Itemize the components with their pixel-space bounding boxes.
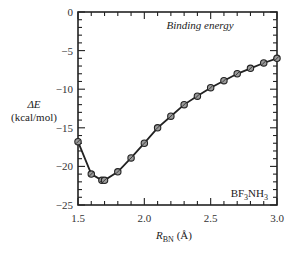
data-point-marker bbox=[154, 125, 160, 131]
data-point-marker bbox=[141, 140, 147, 146]
annot-nh: NH bbox=[248, 187, 264, 199]
data-point-marker bbox=[75, 138, 81, 144]
data-point-marker bbox=[115, 169, 121, 175]
data-point-marker bbox=[234, 71, 240, 77]
y-tick-label: −10 bbox=[56, 83, 74, 95]
x-axis-title-unit: (Å) bbox=[174, 229, 192, 242]
data-series bbox=[75, 55, 280, 183]
y-tick-label: −25 bbox=[56, 199, 74, 211]
annot-bf: BF bbox=[231, 187, 244, 199]
y-tick-label: −5 bbox=[61, 45, 73, 57]
y-axis-title: ΔE bbox=[26, 98, 40, 110]
y-axis-title-symbol: ΔE bbox=[26, 98, 40, 110]
data-point-marker bbox=[194, 93, 200, 99]
axis-ticks bbox=[78, 12, 277, 205]
x-tick-label: 3.0 bbox=[270, 212, 284, 224]
series-line bbox=[78, 58, 277, 180]
data-point-marker bbox=[168, 113, 174, 119]
data-point-marker bbox=[128, 155, 134, 161]
data-point-marker bbox=[181, 101, 187, 107]
chart-title: Binding energy bbox=[166, 19, 233, 31]
x-tick-label: 2.0 bbox=[137, 212, 151, 224]
data-point-marker bbox=[221, 78, 227, 84]
y-tick-label: −15 bbox=[56, 122, 74, 134]
y-tick-label: 0 bbox=[68, 6, 74, 18]
annot-sub-3b: 3 bbox=[264, 193, 268, 202]
data-point-marker bbox=[88, 171, 94, 177]
data-point-marker bbox=[101, 177, 107, 183]
data-point-marker bbox=[261, 60, 267, 66]
data-point-marker bbox=[274, 55, 280, 61]
plot-frame bbox=[78, 12, 277, 205]
x-axis-title-subscript: BN bbox=[163, 235, 174, 244]
x-axis-title: RBN (Å) bbox=[155, 229, 192, 244]
plot-border bbox=[78, 12, 277, 205]
x-tick-label: 1.5 bbox=[71, 212, 85, 224]
data-point-marker bbox=[207, 84, 213, 90]
molecule-annotation: BF3NH3 bbox=[231, 187, 268, 202]
y-tick-label: −20 bbox=[56, 160, 74, 172]
x-tick-label: 2.5 bbox=[204, 212, 218, 224]
binding-energy-chart: 1.52.02.53.00−5−10−15−20−25 Binding ener… bbox=[0, 0, 296, 255]
data-point-marker bbox=[247, 65, 253, 71]
y-axis-units: (kcal/mol) bbox=[11, 111, 57, 124]
